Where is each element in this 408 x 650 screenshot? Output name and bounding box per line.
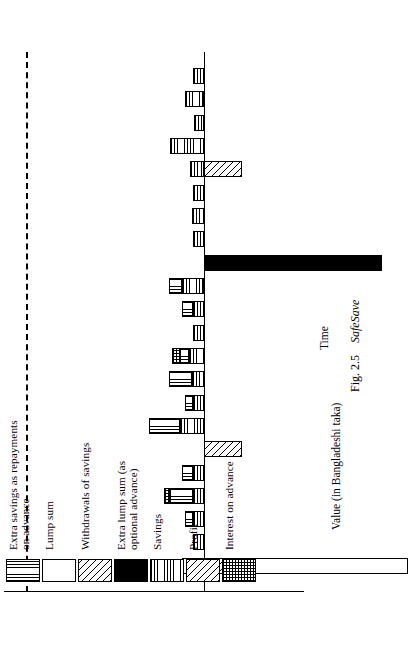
legend-swatch-withdrawals-of-savings-icon — [78, 559, 112, 582]
figure-number: Fig. 2.5 — [348, 355, 362, 392]
legend-item: Savings — [150, 332, 180, 582]
bar-segment-extra-lump-sum — [204, 255, 382, 271]
bar-segment-extra-savings-repayments — [182, 301, 193, 317]
legend-label: Interest on advance — [222, 461, 235, 550]
legend-swatch-extra-savings-repayments-icon — [6, 559, 40, 582]
bar-segment-savings — [192, 208, 204, 224]
legend-label: Lump sum — [42, 501, 55, 550]
legend-swatch-interest-on-advance-icon — [222, 559, 256, 582]
x-axis-title: Time — [318, 326, 330, 350]
bar-group — [4, 161, 304, 177]
legend: Extra savings as repayments on advanceLu… — [6, 332, 258, 582]
bar-segment-savings — [193, 68, 204, 84]
figure-name: SafeSave — [348, 300, 362, 343]
legend-label: Savings — [150, 514, 163, 550]
figure-caption: Fig. 2.5 SafeSave — [348, 300, 363, 392]
bar-segment-lump-sum — [248, 558, 408, 574]
bar-group — [4, 115, 304, 131]
legend-item: Extra lump sum (as optional advance) — [114, 332, 144, 582]
bar-group — [4, 91, 304, 107]
bar-segment-savings — [194, 115, 204, 131]
bar-group — [4, 185, 304, 201]
legend-swatch-extra-lump-sum-icon — [114, 559, 148, 582]
bar-segment-savings — [185, 91, 204, 107]
legend-item: Profit — [186, 332, 216, 582]
bar-group — [4, 208, 304, 224]
y-axis-title: Value (in Bangladeshi taka) — [330, 403, 342, 530]
value-axis-line — [4, 591, 304, 592]
legend-swatch-savings-icon — [150, 559, 184, 582]
bar-group — [4, 231, 304, 247]
legend-swatch-profit-icon — [186, 559, 220, 582]
bar-segment-savings — [193, 231, 204, 247]
bar-segment-savings — [193, 185, 204, 201]
bar-group — [4, 301, 304, 317]
bar-segment-savings — [182, 278, 204, 294]
legend-item: Lump sum — [42, 332, 72, 582]
bar-segment-extra-savings-repayments — [169, 278, 181, 294]
legend-item: Withdrawals of savings — [78, 332, 108, 582]
bar-group — [4, 138, 304, 154]
bar-segment-savings — [170, 138, 204, 154]
bar-group — [4, 278, 304, 294]
legend-label: Extra savings as repayments on advance — [6, 420, 32, 550]
bar-segment-savings — [190, 161, 204, 177]
bar-group — [4, 255, 304, 271]
legend-swatch-lump-sum-icon — [42, 559, 76, 582]
legend-label: Extra lump sum (as optional advance) — [114, 461, 140, 550]
bar-segment-profit — [204, 161, 242, 177]
legend-item: Interest on advance — [222, 332, 252, 582]
bar-group — [4, 68, 304, 84]
legend-label: Withdrawals of savings — [78, 443, 91, 550]
bar-segment-savings — [193, 301, 204, 317]
legend-item: Extra savings as repayments on advance — [6, 332, 36, 582]
legend-label: Profit — [186, 524, 199, 550]
